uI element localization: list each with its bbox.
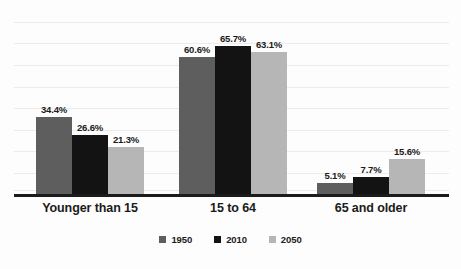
bar-rect: [251, 52, 287, 195]
legend-label: 1950: [171, 234, 192, 245]
bar-value-label: 63.1%: [256, 39, 282, 50]
category-label-15-to-64: 15 to 64: [158, 201, 308, 215]
legend-item-2010[interactable]: 2010: [214, 234, 247, 245]
legend-item-1950[interactable]: 1950: [159, 234, 192, 245]
bar-rect: [215, 46, 251, 195]
bar-2010-younger-than-15[interactable]: 26.6%: [72, 5, 108, 195]
bar-chart: 34.4% 26.6% 21.3% 60.6% 65.7%: [0, 0, 461, 269]
bar-value-label: 34.4%: [41, 104, 67, 115]
legend-swatch-icon: [269, 236, 276, 243]
legend-item-2050[interactable]: 2050: [269, 234, 302, 245]
bar-2050-65-and-older[interactable]: 15.6%: [389, 5, 425, 195]
bar-2050-younger-than-15[interactable]: 21.3%: [108, 5, 144, 195]
bar-1950-65-and-older[interactable]: 5.1%: [317, 5, 353, 195]
bar-1950-younger-than-15[interactable]: 34.4%: [36, 5, 72, 195]
bar-rect: [179, 57, 215, 195]
bar-2010-15-to-64[interactable]: 65.7%: [215, 5, 251, 195]
bar-value-label: 26.6%: [77, 122, 103, 133]
legend-swatch-icon: [159, 236, 166, 243]
bar-2010-65-and-older[interactable]: 7.7%: [353, 5, 389, 195]
category-label-younger-than-15: Younger than 15: [15, 201, 165, 215]
bar-rect: [389, 159, 425, 195]
bar-group-younger-than-15: 34.4% 26.6% 21.3%: [35, 5, 145, 195]
bar-rect: [72, 135, 108, 195]
bar-value-label: 21.3%: [113, 134, 139, 145]
plot-area: 34.4% 26.6% 21.3% 60.6% 65.7%: [0, 0, 461, 200]
category-axis-labels: Younger than 15 15 to 64 65 and older: [0, 201, 461, 223]
bar-group-65-and-older: 5.1% 7.7% 15.6%: [316, 5, 426, 195]
bar-rect: [36, 117, 72, 195]
bar-rect: [108, 147, 144, 195]
category-label-65-and-older: 65 and older: [296, 201, 446, 215]
bar-1950-15-to-64[interactable]: 60.6%: [179, 5, 215, 195]
bar-rect: [353, 177, 389, 195]
x-axis-line: [14, 194, 449, 197]
bar-value-label: 65.7%: [220, 33, 246, 44]
bar-value-label: 60.6%: [184, 44, 210, 55]
bar-value-label: 5.1%: [325, 170, 346, 181]
bar-group-15-to-64: 60.6% 65.7% 63.1%: [178, 5, 288, 195]
bar-value-label: 15.6%: [394, 146, 420, 157]
legend-label: 2010: [226, 234, 247, 245]
legend-label: 2050: [281, 234, 302, 245]
bar-2050-15-to-64[interactable]: 63.1%: [251, 5, 287, 195]
chart-legend: 1950 2010 2050: [0, 234, 461, 245]
bar-value-label: 7.7%: [361, 164, 382, 175]
legend-swatch-icon: [214, 236, 221, 243]
